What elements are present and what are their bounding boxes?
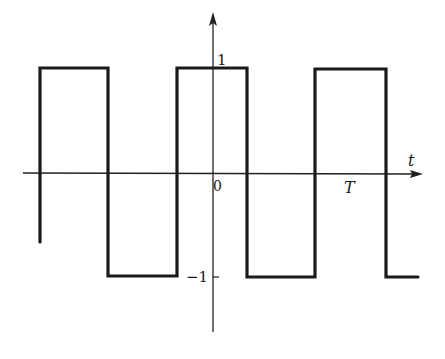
square-wave-signal [40,68,418,277]
square-wave-diagram: 1 −1 0 T t [0,0,445,359]
y-label-one: 1 [217,51,227,69]
origin-label: 0 [213,178,222,194]
period-label: T [344,178,356,197]
t-axis-label: t [408,151,415,170]
y-label-minus-one: −1 [186,268,208,286]
t-axis [23,170,423,178]
